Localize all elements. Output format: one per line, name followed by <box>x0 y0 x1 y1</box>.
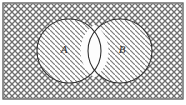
venn-diagram-figure: A B <box>0 0 186 105</box>
set-label-B: B <box>119 43 126 55</box>
venn-diagram-canvas: A B <box>0 0 186 105</box>
set-label-A: A <box>60 43 68 55</box>
